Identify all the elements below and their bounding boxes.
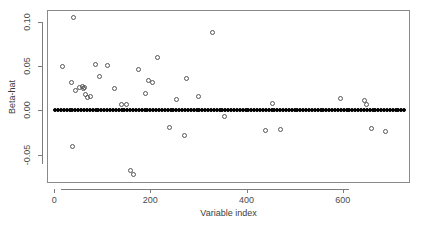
x-tick-mark [343, 189, 344, 193]
x-tick-mark [150, 189, 151, 193]
x-tick-mark [247, 189, 248, 193]
x-tick-mark [54, 189, 55, 193]
y-tick-label: 0.00 [22, 101, 393, 119]
y-tick-label: 0.10 [22, 13, 393, 31]
y-tick-label: -0.05 [22, 144, 393, 165]
x-axis-line [61, 189, 349, 190]
x-tick-label: 0 [52, 195, 57, 205]
y-tick-label: 0.05 [22, 57, 393, 75]
x-tick-label: 200 [143, 195, 158, 205]
scatter-plot-figure: 0200400600 0.100.050.00-0.05 Variable in… [0, 0, 429, 227]
x-tick-label: 600 [335, 195, 350, 205]
x-axis-title: Variable index [47, 208, 410, 219]
y-axis-line [42, 22, 43, 164]
x-tick-label: 400 [239, 195, 254, 205]
y-axis-title: Beta-hat [6, 10, 18, 183]
